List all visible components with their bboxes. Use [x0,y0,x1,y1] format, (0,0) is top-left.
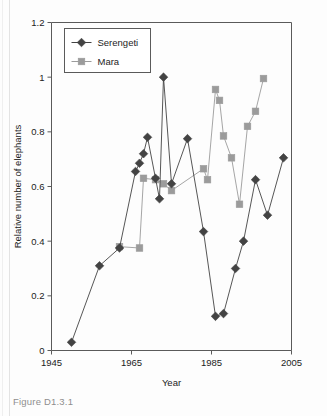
y-tick-label: 1.2 [31,17,44,28]
data-point-marker [219,309,228,318]
data-point-marker [204,176,211,183]
data-point-marker [131,167,140,176]
data-point-marker [279,154,288,163]
data-point-marker [260,75,267,82]
y-tick-label: 1 [39,72,44,83]
data-point-marker [155,195,164,204]
data-point-marker [231,264,240,273]
y-tick-label: 0.6 [31,181,44,192]
data-point-marker [216,97,223,104]
data-point-marker [220,133,227,140]
data-point-marker [167,179,176,188]
x-tick-label: 2005 [281,357,302,368]
elephant-population-chart: 00.20.40.60.811.2 1945196519852005 Seren… [0,0,327,416]
data-point-marker [236,201,243,208]
data-point-marker [211,312,220,321]
data-point-marker [244,123,251,130]
data-point-marker [200,165,207,172]
y-tick-label: 0 [39,345,44,356]
data-point-marker [143,133,152,142]
data-point-marker [140,175,147,182]
x-axis-ticks: 1945196519852005 [41,351,302,368]
legend-label: Mara [98,56,120,67]
figure-caption: Figure D1.3.1 [13,396,73,407]
x-axis-title: Year [162,377,181,388]
data-point-marker [199,227,208,236]
data-point-marker [135,159,144,168]
data-point-marker [78,58,85,65]
data-point-marker [136,245,143,252]
legend-label: Serengeti [98,37,139,48]
data-point-marker [239,237,248,246]
x-tick-label: 1985 [201,357,222,368]
data-point-marker [159,73,168,82]
x-tick-label: 1965 [121,357,142,368]
y-tick-label: 0.8 [31,126,44,137]
data-point-marker [263,211,272,220]
figure-container: 00.20.40.60.811.2 1945196519852005 Seren… [0,0,327,416]
data-point-marker [252,108,259,115]
data-point-marker [228,155,235,162]
chart-legend: SerengetiMara [65,29,151,73]
y-axis-ticks: 00.20.40.60.811.2 [31,17,51,356]
data-point-marker [183,134,192,143]
data-series-layer [67,73,288,347]
data-point-marker [160,180,167,187]
y-axis-title: Relative number of elephants [12,124,23,248]
data-point-marker [212,86,219,93]
x-tick-label: 1945 [41,357,62,368]
data-point-marker [67,338,76,347]
series-line [72,77,284,342]
legend-item-serengeti[interactable]: Serengeti [72,37,139,48]
y-tick-label: 0.4 [31,236,44,247]
data-point-marker [139,149,148,158]
data-point-marker [251,175,260,184]
y-tick-label: 0.2 [31,290,44,301]
